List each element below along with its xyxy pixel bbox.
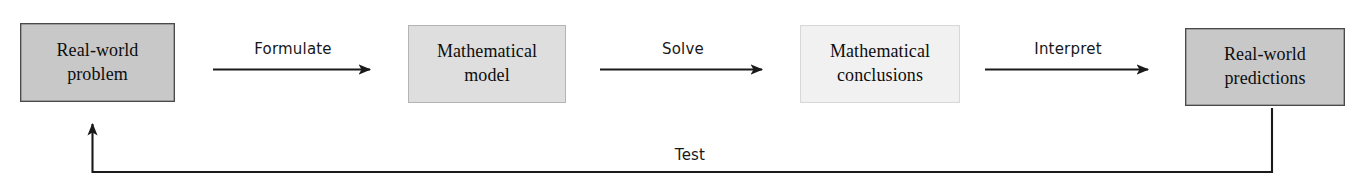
node-real-world-predictions[interactable]: Real-world predictions	[1185, 28, 1345, 106]
diagram-canvas: Real-world problem Mathematical model Ma…	[0, 0, 1369, 191]
node-label-line2: model	[464, 64, 510, 88]
node-label-line2: conclusions	[837, 64, 923, 88]
edge-label-formulate: Formulate	[254, 40, 332, 58]
node-label-line1: Mathematical	[437, 40, 537, 64]
node-label-line1: Mathematical	[830, 40, 930, 64]
node-label-line2: problem	[67, 63, 128, 87]
edge-label-solve: Solve	[662, 40, 704, 58]
node-mathematical-model[interactable]: Mathematical model	[408, 25, 566, 103]
node-mathematical-conclusions[interactable]: Mathematical conclusions	[800, 25, 960, 103]
edge-label-test: Test	[675, 146, 705, 164]
node-label-line1: Real-world	[1224, 43, 1306, 67]
edge-label-interpret: Interpret	[1034, 40, 1101, 58]
node-real-world-problem[interactable]: Real-world problem	[20, 23, 175, 102]
node-label-line2: predictions	[1224, 67, 1305, 91]
node-label-line1: Real-world	[57, 39, 139, 63]
